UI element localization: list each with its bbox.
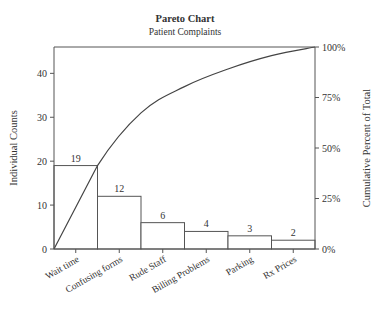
bar-value-label: 12 (114, 183, 124, 194)
bar-value-label: 19 (71, 153, 81, 164)
y-axis-ticks: 010203040 (37, 68, 54, 255)
y-tick-label: 20 (37, 156, 47, 167)
y2-axis-label: Cumulative Percent of Total (361, 89, 372, 207)
y-tick-label: 40 (37, 68, 47, 79)
chart-subtitle: Patient Complaints (149, 27, 222, 37)
y2-tick-label: 0% (322, 244, 335, 255)
x-tick-label: Parking (224, 254, 255, 278)
x-tick-label: Wait time (44, 254, 81, 281)
y2-axis-ticks: 0%25%50%75%100% (315, 42, 345, 255)
bar-1 (98, 196, 142, 249)
chart-title: Pareto Chart (156, 13, 215, 24)
bar-4 (228, 236, 272, 249)
x-tick-label: Rx Prices (261, 254, 298, 281)
bar-5 (272, 240, 316, 249)
y-tick-label: 10 (37, 200, 47, 211)
bar-value-label: 4 (204, 218, 209, 229)
x-axis-ticks: Wait timeConfusing formsRude StaffBillin… (44, 249, 299, 295)
bar-value-label: 3 (247, 223, 252, 234)
y-tick-label: 30 (37, 112, 47, 123)
y-axis-label: Individual Counts (8, 110, 19, 186)
bar-value-label: 6 (160, 210, 165, 221)
y2-tick-label: 50% (322, 143, 340, 154)
bar-value-label: 2 (291, 227, 296, 238)
y2-tick-label: 25% (322, 193, 340, 204)
y2-tick-label: 100% (322, 42, 345, 53)
y2-tick-label: 75% (322, 92, 340, 103)
bar-3 (185, 231, 229, 249)
y-tick-label: 0 (42, 244, 47, 255)
pareto-chart: Pareto Chart Patient Complaints 19126432… (0, 0, 387, 321)
bar-2 (141, 223, 185, 249)
bars (54, 166, 315, 249)
